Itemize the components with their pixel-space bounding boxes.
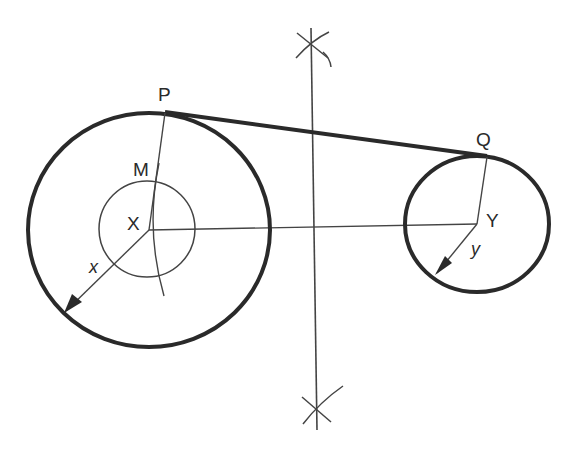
tangent-line-pq	[165, 112, 487, 156]
label-x-radius: x	[88, 257, 99, 277]
label-p: P	[158, 84, 171, 105]
perpendicular-bisector	[311, 28, 317, 430]
label-y-radius: y	[469, 239, 481, 259]
radius-x-arrow	[64, 230, 149, 313]
centre-line	[149, 224, 477, 230]
bottom-construction-arcs	[302, 386, 343, 424]
label-q: Q	[476, 129, 491, 150]
label-m: M	[133, 159, 149, 180]
top-construction-arcs	[296, 32, 331, 67]
label-x-centre: X	[127, 213, 140, 234]
label-y-centre: Y	[486, 210, 499, 231]
belt-tangent-diagram: P Q M X Y x y	[0, 0, 583, 461]
